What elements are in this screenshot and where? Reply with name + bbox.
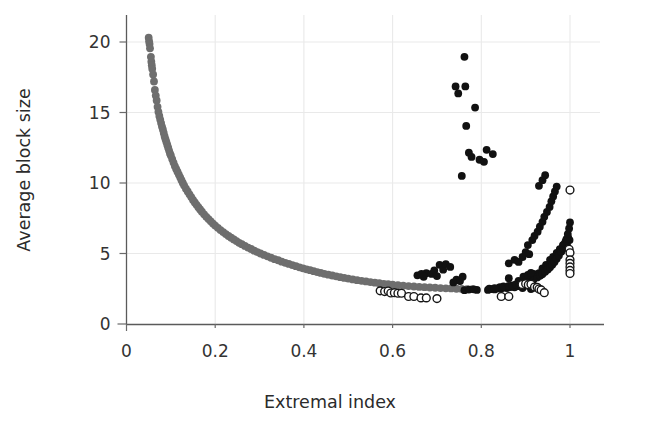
y-tick-label: 5 bbox=[100, 244, 111, 264]
data-point-black bbox=[471, 104, 479, 112]
y-tick-label: 10 bbox=[89, 173, 111, 193]
y-axis-tick-labels: 05101520 bbox=[89, 32, 111, 334]
data-point-open bbox=[497, 293, 505, 301]
data-point-open bbox=[540, 289, 548, 297]
y-tick-label: 15 bbox=[89, 103, 111, 123]
data-point-black bbox=[454, 90, 462, 98]
x-axis-tick-labels: 00.20.40.60.81 bbox=[121, 341, 575, 361]
data-point-black bbox=[470, 285, 478, 293]
x-tick-label: 0.8 bbox=[468, 341, 495, 361]
data-point-black bbox=[566, 219, 574, 227]
data-point-black bbox=[553, 183, 561, 191]
data-point-gray bbox=[149, 71, 157, 79]
data-point-black bbox=[527, 269, 535, 277]
data-point-black bbox=[446, 263, 454, 271]
data-point-gray bbox=[150, 78, 158, 86]
chart-figure: 00.20.40.60.81 05101520 Extremal index A… bbox=[0, 0, 658, 429]
data-point-open bbox=[566, 270, 574, 278]
data-point-black bbox=[480, 158, 488, 166]
data-point-black bbox=[462, 122, 470, 130]
data-point-black bbox=[525, 250, 533, 258]
gray-data-points bbox=[145, 34, 477, 293]
data-point-black bbox=[461, 53, 469, 61]
data-point-open bbox=[422, 294, 430, 302]
y-tick-label: 0 bbox=[100, 314, 111, 334]
y-tick-label: 20 bbox=[89, 32, 111, 52]
data-point-black bbox=[461, 83, 469, 91]
y-axis-title: Average block size bbox=[14, 88, 34, 251]
data-point-gray bbox=[146, 44, 154, 52]
x-axis-title: Extremal index bbox=[264, 392, 396, 412]
data-point-black bbox=[489, 150, 497, 158]
scatter-plot: 00.20.40.60.81 05101520 Extremal index A… bbox=[0, 0, 658, 429]
x-tick-label: 0.4 bbox=[290, 341, 317, 361]
data-point-black bbox=[458, 172, 466, 180]
data-point-black bbox=[459, 273, 467, 281]
data-point-black bbox=[491, 284, 499, 292]
data-point-black bbox=[433, 272, 441, 280]
data-point-black bbox=[505, 274, 513, 282]
x-tick-label: 0 bbox=[121, 341, 132, 361]
data-point-black bbox=[420, 273, 428, 281]
black-data-points bbox=[414, 53, 574, 294]
data-point-black bbox=[452, 83, 460, 91]
x-tick-label: 1 bbox=[565, 341, 576, 361]
data-point-black bbox=[468, 153, 476, 161]
data-point-black bbox=[541, 171, 549, 179]
data-point-open bbox=[433, 295, 441, 303]
x-tick-label: 0.2 bbox=[202, 341, 229, 361]
data-point-open bbox=[505, 293, 513, 301]
x-tick-label: 0.6 bbox=[379, 341, 406, 361]
data-point-open bbox=[566, 186, 574, 194]
